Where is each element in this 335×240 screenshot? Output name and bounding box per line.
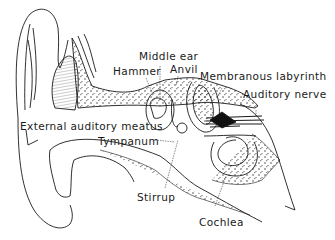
label-hammer: Hammer [113, 65, 161, 77]
label-middle-ear: Middle ear [139, 50, 198, 62]
label-stirrup: Stirrup [137, 191, 175, 203]
label-auditory-nerve: Auditory nerve [243, 88, 327, 100]
label-tympanum: Tympanum [98, 135, 159, 147]
label-membranous-labyrinth: Membranous labyrinth [200, 70, 327, 82]
label-cochlea: Cochlea [199, 216, 244, 228]
label-external-auditory-meatus: External auditory meatus [20, 120, 163, 132]
label-anvil: Anvil [170, 63, 198, 75]
